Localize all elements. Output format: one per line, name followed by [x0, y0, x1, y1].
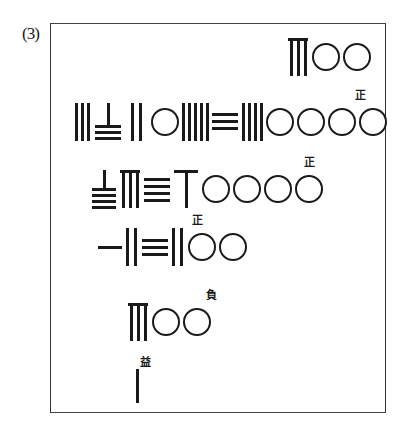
rod-digit-1	[136, 369, 139, 407]
rod-digit-3-horizontal	[142, 228, 168, 266]
sign-tag-positive: 正	[304, 153, 315, 169]
rod-digit-0	[202, 175, 230, 203]
sign-tag-positive: 正	[192, 211, 203, 227]
rod-digit-8	[288, 38, 308, 76]
rod-row-3	[92, 170, 326, 208]
sign-tag-negative: 負	[206, 286, 217, 302]
rod-digit-0	[312, 43, 340, 71]
rod-digit-0	[295, 175, 323, 203]
rod-digit-8	[120, 170, 140, 208]
rod-digit-2	[172, 228, 184, 266]
rod-digit-0	[219, 233, 247, 261]
sign-tag-yi: 益	[140, 353, 151, 369]
rod-digit-0	[151, 108, 179, 136]
rod-digit-4	[242, 103, 262, 141]
rod-digit-2	[131, 103, 143, 141]
rod-digit-9	[92, 170, 116, 208]
rod-digit-0	[183, 308, 211, 336]
rod-row-2	[75, 103, 390, 141]
rod-digit-0	[264, 175, 292, 203]
rod-digit-0	[297, 108, 325, 136]
rod-digit-0	[359, 108, 387, 136]
rod-digit-3-horizontal	[212, 103, 238, 141]
rod-digit-0	[188, 233, 216, 261]
figure-label: (3)	[22, 24, 39, 44]
rod-row-4	[98, 228, 250, 266]
rod-digit-0	[266, 108, 294, 136]
rod-digit-2	[126, 228, 138, 266]
rod-digit-6	[174, 170, 198, 208]
rod-digit-0	[328, 108, 356, 136]
sign-tag-positive: 正	[355, 86, 366, 102]
rod-digit-0	[233, 175, 261, 203]
rod-digit-0	[152, 308, 180, 336]
rod-digit-5	[182, 103, 208, 141]
figure-frame	[50, 23, 386, 413]
rod-digit-7	[95, 103, 121, 141]
rod-digit-4-horizontal	[144, 170, 170, 208]
rod-digit-3	[75, 103, 91, 141]
rod-row-5	[128, 303, 214, 341]
rod-digit-8	[128, 303, 148, 341]
rod-digit-1-horizontal	[98, 228, 122, 266]
rod-row-6	[136, 369, 143, 407]
rod-digit-0	[343, 43, 371, 71]
rod-row-1	[288, 38, 374, 76]
